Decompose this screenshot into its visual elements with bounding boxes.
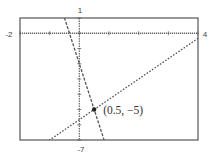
ymin-label: -7 [77, 145, 85, 154]
series-line-1 [20, 0, 198, 157]
intersection-point [92, 107, 96, 111]
xmax-label: 4 [203, 30, 208, 39]
graph-window: (0.5, −5) 1 -2 4 -7 [0, 0, 212, 157]
axes [20, 18, 198, 140]
ymax-label: 1 [78, 6, 83, 15]
series-layer [20, 0, 198, 157]
viewing-window-frame [20, 18, 198, 140]
series-line-2 [20, 38, 198, 157]
intersection-label: (0.5, −5) [103, 104, 143, 117]
xmin-label: -2 [5, 30, 13, 39]
